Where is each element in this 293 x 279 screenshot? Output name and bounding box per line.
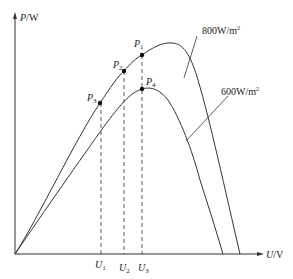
u1-label: U1 — [95, 259, 106, 272]
label-600-leader-line — [186, 96, 228, 141]
curve-800 — [15, 43, 240, 254]
u3-label: U3 — [138, 262, 149, 275]
curve-600 — [15, 88, 223, 254]
point-p3: P3 — [86, 92, 102, 105]
u2-label: U2 — [119, 262, 130, 275]
curve-800-label: 800W/m2 — [202, 25, 240, 36]
y-axis: P/W — [13, 12, 39, 254]
svg-text:P3: P3 — [86, 92, 97, 105]
pu-curve-diagram: P/W U/V P1 P2 P3 P4 800W/m2 600W/m2 U1 U… — [0, 0, 293, 279]
svg-text:P2: P2 — [112, 59, 123, 72]
svg-text:P1: P1 — [133, 38, 144, 51]
svg-text:P4: P4 — [145, 76, 156, 89]
x-axis: U/V — [15, 249, 284, 260]
x-axis-label: U/V — [266, 249, 284, 260]
point-p2: P2 — [112, 59, 126, 73]
y-axis-arrow-icon — [13, 12, 17, 19]
point-p1: P1 — [133, 38, 144, 57]
curve-600-label: 600W/m2 — [221, 86, 259, 97]
y-axis-label: P/W — [19, 12, 39, 23]
x-axis-arrow-icon — [257, 252, 264, 256]
